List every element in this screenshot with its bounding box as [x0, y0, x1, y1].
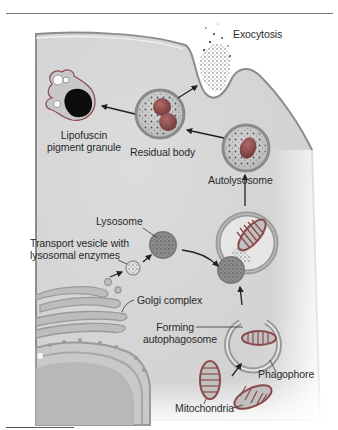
label-forming-line1: Forming: [130, 321, 194, 333]
label-transport-vesicle-line1: Transport vesicle with: [30, 237, 129, 249]
label-phagophore: Phagophore: [258, 368, 314, 380]
label-residual-body: Residual body: [130, 146, 195, 158]
label-transport-vesicle-line2: lysosomal enzymes: [30, 249, 120, 261]
label-lipofuscin-line1: Lipofuscin: [40, 129, 128, 141]
label-forming-line2: autophagosome: [143, 333, 217, 345]
autolysosome: [223, 125, 269, 171]
label-lysosome: Lysosome: [96, 215, 143, 227]
label-mitochondria: Mitochondria: [175, 402, 234, 414]
residual-body: [136, 90, 184, 138]
exocytosis-particles: [199, 23, 231, 91]
label-golgi-complex: Golgi complex: [137, 294, 202, 306]
bottom-rule: [6, 427, 74, 428]
transport-vesicle: [126, 261, 140, 275]
label-autolysosome: Autolysosome: [208, 174, 273, 186]
label-lipofuscin-line2: pigment granule: [40, 141, 128, 153]
label-exocytosis: Exocytosis: [233, 28, 282, 40]
autophagy-diagram: [0, 0, 338, 430]
